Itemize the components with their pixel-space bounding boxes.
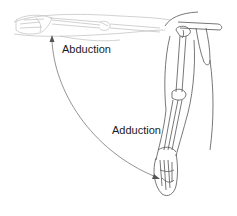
abduction-label: Abduction — [62, 44, 111, 55]
adduction-label: Adduction — [112, 125, 161, 136]
diagram-drawing — [0, 0, 237, 216]
adducted-arm — [154, 36, 195, 196]
arrowhead-right-icon — [152, 174, 160, 179]
anatomy-diagram: Abduction Adduction — [0, 0, 237, 216]
abducted-arm — [14, 14, 170, 40]
motion-arrow — [50, 35, 161, 179]
